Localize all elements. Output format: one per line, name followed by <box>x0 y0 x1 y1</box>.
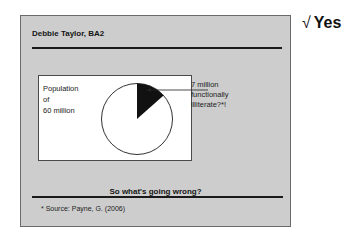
population-line-3: 60 million <box>43 105 78 116</box>
chart-panel: Population of 60 million <box>38 75 192 161</box>
annotation-line-3: illiterate?*! <box>191 100 229 110</box>
slide-frame: Debbie Taylor, BA2 Population of 60 mill… <box>20 15 291 227</box>
slide-title: Debbie Taylor, BA2 <box>32 29 104 38</box>
population-pie-chart <box>100 82 174 156</box>
population-line-2: of <box>43 94 78 105</box>
population-label: Population of 60 million <box>43 83 78 116</box>
illiterate-annotation: 7 million functionally illiterate?*! <box>191 80 229 110</box>
question-text: So what's going wrong? <box>21 187 290 196</box>
verdict-label: Yes <box>314 14 342 31</box>
checkmark-icon: √ <box>302 14 311 31</box>
source-citation: * Source: Payne, G. (2006) <box>41 205 125 212</box>
annotation-line-1: 7 million <box>191 80 229 90</box>
top-divider <box>32 47 282 49</box>
population-line-1: Population <box>43 83 78 94</box>
verdict: √Yes <box>302 14 341 32</box>
annotation-line-2: functionally <box>191 90 229 100</box>
bottom-divider <box>32 196 283 198</box>
